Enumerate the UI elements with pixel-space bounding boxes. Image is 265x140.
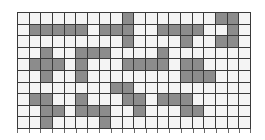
grid-cell-empty — [111, 13, 123, 25]
grid-cell-empty — [146, 71, 158, 83]
tick-mark — [250, 129, 251, 133]
grid-cell-empty — [65, 94, 77, 106]
grid-bottom-ticks — [17, 129, 251, 133]
grid-cell-empty — [111, 59, 123, 71]
grid-cell-empty — [111, 94, 123, 106]
grid-cell-empty — [65, 59, 77, 71]
grid-cell-empty — [146, 94, 158, 106]
grid-cell-empty — [65, 117, 77, 129]
grid-cell-filled — [158, 48, 170, 60]
tick-mark — [239, 129, 240, 133]
grid-cell-empty — [30, 117, 42, 129]
grid-cell-empty — [158, 36, 170, 48]
grid-cell-empty — [123, 71, 135, 83]
grid-cell-empty — [204, 48, 216, 60]
tick-mark — [29, 129, 30, 133]
grid-cell-empty — [169, 106, 181, 118]
tick-mark — [76, 129, 77, 133]
grid-cell-empty — [134, 25, 146, 37]
grid-cell-filled — [100, 25, 112, 37]
grid-cell-empty — [123, 117, 135, 129]
tick-mark — [17, 129, 18, 133]
grid-cell-empty — [216, 83, 228, 95]
tick-mark — [52, 129, 53, 133]
grid-cell-empty — [204, 94, 216, 106]
grid-cell-empty — [204, 25, 216, 37]
grid-cell-empty — [146, 36, 158, 48]
grid-cell-empty — [123, 48, 135, 60]
grid-cell-empty — [88, 94, 100, 106]
grid-cell-empty — [18, 36, 30, 48]
grid-cell-empty — [88, 71, 100, 83]
grid-cell-filled — [123, 94, 135, 106]
grid-cell-empty — [88, 59, 100, 71]
grid-cell-empty — [18, 59, 30, 71]
grid-cell-empty — [53, 117, 65, 129]
grid-cell-filled — [76, 48, 88, 60]
grid-cell-filled — [123, 83, 135, 95]
grid-cell-empty — [100, 59, 112, 71]
grid-cell-empty — [216, 117, 228, 129]
tick-mark — [99, 129, 100, 133]
grid-cell-empty — [228, 83, 240, 95]
grid-cell-empty — [134, 13, 146, 25]
grid-cell-filled — [181, 106, 193, 118]
grid-cell-empty — [193, 117, 205, 129]
grid-cell-empty — [41, 36, 53, 48]
grid-cell-empty — [204, 59, 216, 71]
grid-cell-filled — [181, 94, 193, 106]
grid-cell-empty — [193, 36, 205, 48]
grid-cell-filled — [76, 25, 88, 37]
grid-cell-empty — [111, 117, 123, 129]
grid-cell-empty — [53, 71, 65, 83]
grid-cell-empty — [169, 59, 181, 71]
grid-cell-empty — [181, 83, 193, 95]
tick-mark — [122, 129, 123, 133]
grid-cell-filled — [181, 71, 193, 83]
grid-cell-empty — [169, 71, 181, 83]
grid-cell-filled — [53, 25, 65, 37]
grid-cell-filled — [30, 59, 42, 71]
grid-cell-empty — [41, 83, 53, 95]
grid-cell-empty — [18, 106, 30, 118]
grid-cell-filled — [134, 59, 146, 71]
grid-cell-filled — [216, 13, 228, 25]
tick-mark — [146, 129, 147, 133]
grid-cell-empty — [169, 117, 181, 129]
grid-cell-empty — [239, 71, 251, 83]
grid-cell-empty — [169, 48, 181, 60]
grid-cell-empty — [134, 36, 146, 48]
grid-cell-filled — [30, 94, 42, 106]
grid-cell-empty — [53, 13, 65, 25]
tick-mark — [181, 129, 182, 133]
grid-cell-empty — [76, 83, 88, 95]
grid-cell-empty — [18, 117, 30, 129]
grid-cell-filled — [41, 25, 53, 37]
grid-cell-empty — [53, 94, 65, 106]
grid-cell-empty — [18, 83, 30, 95]
grid-cell-empty — [228, 117, 240, 129]
grid-cell-empty — [216, 25, 228, 37]
grid-cell-empty — [134, 117, 146, 129]
grid-cell-empty — [158, 71, 170, 83]
grid-cell-filled — [228, 25, 240, 37]
grid-cell-filled — [134, 94, 146, 106]
grid-cell-empty — [65, 36, 77, 48]
grid-cell-filled — [76, 106, 88, 118]
grid-cell-empty — [30, 48, 42, 60]
grid-cell-empty — [239, 48, 251, 60]
grid-cell-empty — [216, 94, 228, 106]
grid-cell-filled — [169, 25, 181, 37]
grid-cell-filled — [181, 59, 193, 71]
grid-cell-empty — [30, 106, 42, 118]
grid-cell-empty — [193, 13, 205, 25]
grid-cell-filled — [204, 71, 216, 83]
grid-cell-empty — [228, 48, 240, 60]
grid-cell-filled — [123, 13, 135, 25]
grid-cell-filled — [88, 106, 100, 118]
grid-cell-empty — [100, 83, 112, 95]
grid-cell-empty — [181, 13, 193, 25]
grid-cell-filled — [216, 36, 228, 48]
grid-cell-filled — [181, 36, 193, 48]
grid-cell-empty — [239, 25, 251, 37]
